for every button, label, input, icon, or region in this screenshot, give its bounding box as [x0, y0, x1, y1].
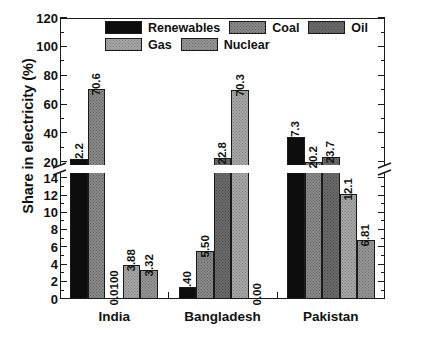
bar-bangladesh-oil — [214, 158, 232, 299]
y-tick-40 — [60, 132, 67, 133]
y-tick-100 — [378, 46, 385, 47]
y-tick-70 — [381, 89, 385, 90]
y-tick-3 — [381, 272, 385, 273]
y-tick-6 — [60, 246, 67, 247]
value-label-india-coal: 70.6 — [91, 73, 103, 95]
legend-swatch-coal — [229, 21, 266, 34]
legend-item-gas[interactable]: Gas — [105, 38, 172, 52]
y-tick-6 — [378, 246, 385, 247]
y-tick-1 — [60, 290, 64, 291]
y-tick-4 — [378, 264, 385, 265]
y-tick-90 — [60, 60, 64, 61]
y-tick-120 — [60, 17, 67, 18]
y-tick-90 — [381, 60, 385, 61]
x-axis-label-bangladesh: Bangladesh — [184, 309, 261, 324]
y-axis-title: Share in electricity (%) — [20, 36, 36, 236]
legend-label-gas: Gas — [148, 38, 172, 52]
y-tick-label-40: 40 — [44, 127, 58, 140]
y-tick-13 — [60, 186, 64, 187]
y-tick-7 — [60, 238, 64, 239]
y-tick-30 — [60, 147, 64, 148]
value-label-pakistan-renewables: 37.3 — [290, 121, 302, 143]
y-tick-60 — [60, 104, 67, 105]
bar-bangladesh-gas — [231, 90, 249, 299]
legend-item-oil[interactable]: Oil — [308, 21, 368, 35]
value-label-bangladesh-coal: 5.50 — [199, 236, 211, 258]
bar-india-coal — [88, 89, 106, 299]
bar-pakistan-renewables — [287, 137, 305, 299]
legend-item-nuclear[interactable]: Nuclear — [181, 38, 270, 52]
axis-break-right-icon — [377, 158, 393, 180]
y-tick-13 — [381, 186, 385, 187]
bar-pakistan-gas — [340, 194, 358, 299]
y-tick-10 — [60, 212, 67, 213]
value-label-bangladesh-oil: 22.8 — [217, 142, 229, 164]
y-tick-8 — [60, 229, 67, 230]
legend-row-1: Renewables Coal Oil — [105, 19, 377, 36]
y-tick-label-60: 60 — [44, 98, 58, 111]
legend-row-2: Gas Nuclear — [105, 36, 377, 53]
y-tick-label-80: 80 — [44, 69, 58, 82]
y-tick-12 — [378, 195, 385, 196]
y-tick-2 — [60, 281, 67, 282]
y-tick-label-4: 4 — [51, 258, 58, 271]
bar-india-renewables — [70, 159, 88, 299]
y-tick-2 — [378, 281, 385, 282]
y-tick-5 — [60, 255, 64, 256]
x-axis-label-india: India — [98, 309, 130, 324]
y-tick-7 — [381, 238, 385, 239]
legend-swatch-oil — [308, 21, 345, 34]
y-tick-60 — [378, 104, 385, 105]
axis-break-left-icon — [52, 158, 68, 180]
y-tick-label-6: 6 — [51, 241, 58, 254]
value-label-india-oil: 0.0100 — [108, 270, 120, 305]
y-tick-110 — [60, 32, 64, 33]
y-tick-11 — [381, 203, 385, 204]
y-tick-11 — [60, 203, 64, 204]
y-tick-40 — [378, 132, 385, 133]
legend-label-renewables: Renewables — [148, 21, 220, 35]
y-tick-9 — [60, 220, 64, 221]
value-label-india-gas: 3.88 — [126, 250, 138, 272]
value-label-bangladesh-gas: 70.3 — [234, 74, 246, 96]
value-label-pakistan-nuclear: 6.81 — [360, 224, 372, 246]
y-tick-100 — [60, 46, 67, 47]
y-tick-70 — [60, 89, 64, 90]
y-tick-30 — [381, 147, 385, 148]
y-tick-110 — [381, 32, 385, 33]
value-label-pakistan-oil: 23.7 — [325, 141, 337, 163]
value-label-india-renewables: 22.2 — [73, 143, 85, 165]
y-tick-label-12: 12 — [44, 189, 58, 202]
y-tick-label-0: 0 — [51, 293, 58, 306]
y-tick-label-10: 10 — [44, 206, 58, 219]
legend-label-oil: Oil — [351, 21, 368, 35]
value-label-pakistan-coal: 20.2 — [307, 146, 319, 168]
value-label-bangladesh-nuclear: 0.00 — [252, 283, 264, 305]
legend-swatch-renewables — [105, 21, 142, 34]
value-label-india-nuclear: 3.32 — [143, 254, 155, 276]
y-tick-80 — [378, 75, 385, 76]
y-tick-0 — [378, 298, 385, 299]
y-tick-50 — [381, 118, 385, 119]
y-tick-3 — [60, 272, 64, 273]
y-tick-50 — [60, 118, 64, 119]
bar-pakistan-nuclear — [357, 240, 375, 299]
bar-pakistan-coal — [305, 162, 323, 299]
legend-swatch-gas — [105, 38, 142, 51]
bar-chart: Share in electricity (%) 024681012142040… — [0, 0, 427, 340]
bar-pakistan-oil — [322, 157, 340, 299]
y-tick-label-8: 8 — [51, 223, 58, 236]
legend-label-nuclear: Nuclear — [224, 38, 270, 52]
legend-item-coal[interactable]: Coal — [229, 21, 299, 35]
y-tick-0 — [60, 298, 67, 299]
value-label-bangladesh-renewables: 1.40 — [182, 271, 194, 293]
y-tick-label-120: 120 — [36, 12, 58, 25]
y-tick-9 — [381, 220, 385, 221]
legend-item-renewables[interactable]: Renewables — [105, 21, 220, 35]
y-tick-12 — [60, 195, 67, 196]
y-tick-4 — [60, 264, 67, 265]
legend-swatch-nuclear — [181, 38, 218, 51]
y-tick-120 — [378, 17, 385, 18]
y-tick-8 — [378, 229, 385, 230]
bar-bangladesh-coal — [196, 251, 214, 299]
